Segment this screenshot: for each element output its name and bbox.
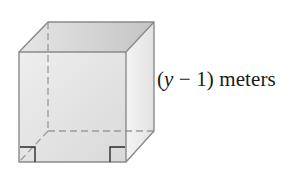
edge-length-label: (y − 1) meters	[157, 67, 276, 92]
cube-diagram: (y − 1) meters	[0, 0, 298, 177]
label-rest: − 1) meters	[174, 67, 276, 91]
label-variable: y	[164, 67, 173, 91]
cube-front-face	[19, 52, 126, 162]
